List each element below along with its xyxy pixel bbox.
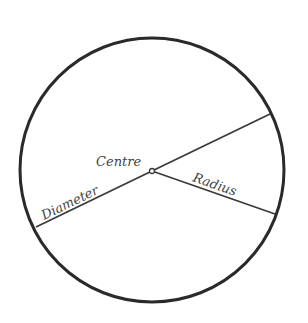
centre-label: Centre	[96, 154, 141, 169]
diameter-label: Diameter	[38, 182, 101, 223]
centre-point	[150, 169, 155, 174]
radius-label: Radius	[190, 169, 239, 199]
circle-diagram: Centre Diameter Radius	[0, 0, 308, 323]
